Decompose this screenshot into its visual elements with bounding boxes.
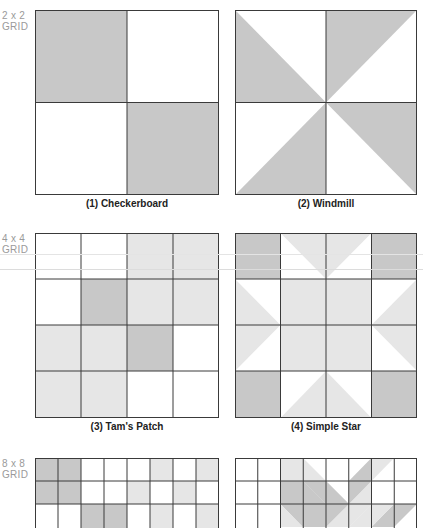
caption-tams-patch: (3) Tam's Patch xyxy=(35,421,219,432)
row-label-8x8: 8 x 8 GRID xyxy=(2,458,28,480)
scan-line xyxy=(0,269,423,270)
caption-checkerboard: (1) Checkerboard xyxy=(35,198,219,209)
row-label-2x2: 2 x 2 GRID xyxy=(2,10,28,32)
scan-line xyxy=(0,254,423,255)
row-label-size: 4 x 4 xyxy=(2,233,28,244)
row-label-size: 2 x 2 xyxy=(2,10,28,21)
row-label-size: 8 x 8 xyxy=(2,458,28,469)
quilt-windmill xyxy=(235,10,417,195)
row-label-grid: GRID xyxy=(2,21,28,32)
row-label-4x4: 4 x 4 GRID xyxy=(2,233,28,255)
caption-simple-star: (4) Simple Star xyxy=(235,421,417,432)
caption-windmill: (2) Windmill xyxy=(235,198,417,209)
quilt-8x8-right xyxy=(235,458,417,528)
quilt-checkerboard xyxy=(35,10,219,195)
quilt-simple-star xyxy=(235,233,417,418)
quilt-8x8-left xyxy=(35,458,219,528)
row-label-grid: GRID xyxy=(2,469,28,480)
quilt-tams-patch xyxy=(35,233,219,418)
